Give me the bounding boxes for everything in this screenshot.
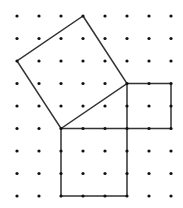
- grid-dot: [37, 37, 40, 40]
- grid-dot: [81, 194, 84, 197]
- grid-dot: [103, 104, 106, 107]
- grid-dot: [15, 194, 18, 197]
- grid-dot: [169, 172, 172, 175]
- grid-dot: [15, 37, 18, 40]
- grid-dot: [169, 14, 172, 17]
- grid-dot: [59, 104, 62, 107]
- grid-dot: [37, 104, 40, 107]
- grid-dot: [37, 127, 40, 130]
- grid-dot: [147, 14, 150, 17]
- grid-dot: [125, 37, 128, 40]
- large-square: [61, 129, 127, 197]
- tilted-square: [17, 16, 127, 129]
- dot-grid-diagram: [0, 0, 183, 208]
- grid-dot: [15, 59, 18, 62]
- grid-dot: [125, 14, 128, 17]
- grid-dot: [37, 82, 40, 85]
- grid-dot: [103, 14, 106, 17]
- grid-dot: [103, 172, 106, 175]
- grid-dot: [125, 104, 128, 107]
- grid-dot: [103, 127, 106, 130]
- grid-dot: [37, 14, 40, 17]
- grid-dot: [103, 59, 106, 62]
- grid-dot: [125, 149, 128, 152]
- grid-dot: [37, 149, 40, 152]
- grid-dot: [37, 194, 40, 197]
- grid-dot: [169, 194, 172, 197]
- grid-dot: [103, 194, 106, 197]
- grid-dot: [147, 149, 150, 152]
- grid-dot: [147, 104, 150, 107]
- grid-dot: [147, 127, 150, 130]
- grid-dot: [15, 127, 18, 130]
- grid-dot: [169, 82, 172, 85]
- diagram-svg: [0, 0, 183, 208]
- grid-dot: [169, 37, 172, 40]
- grid-dot: [169, 149, 172, 152]
- grid-dot: [59, 194, 62, 197]
- grid-dot: [59, 127, 62, 130]
- grid-dot: [81, 127, 84, 130]
- grid-dot: [59, 37, 62, 40]
- grid-dot: [125, 59, 128, 62]
- grid-dot: [147, 82, 150, 85]
- grid-dot: [15, 172, 18, 175]
- grid-dot: [15, 82, 18, 85]
- grid-dot: [59, 149, 62, 152]
- grid-dot: [103, 82, 106, 85]
- grid-dot: [15, 149, 18, 152]
- grid-dot: [169, 127, 172, 130]
- grid-dot: [147, 172, 150, 175]
- grid-dot: [15, 104, 18, 107]
- grid-dot: [81, 104, 84, 107]
- grid-dot: [125, 82, 128, 85]
- grid-dot: [147, 59, 150, 62]
- grid-dot: [37, 59, 40, 62]
- grid-dot: [103, 37, 106, 40]
- grid-dot: [37, 172, 40, 175]
- grid-dot: [147, 194, 150, 197]
- grid-dot: [81, 59, 84, 62]
- grid-dot: [15, 14, 18, 17]
- grid-dot: [103, 149, 106, 152]
- grid-dot: [81, 149, 84, 152]
- grid-dot: [81, 82, 84, 85]
- grid-dot: [169, 104, 172, 107]
- grid-dot: [81, 14, 84, 17]
- grid-dot: [59, 59, 62, 62]
- grid-dot: [59, 14, 62, 17]
- grid-dot: [59, 172, 62, 175]
- grid-dot: [81, 37, 84, 40]
- grid-dot: [59, 82, 62, 85]
- grid-dot: [147, 37, 150, 40]
- grid-dot: [81, 172, 84, 175]
- grid-dot: [125, 127, 128, 130]
- grid-dot: [169, 59, 172, 62]
- grid-dot: [125, 172, 128, 175]
- grid-dot: [125, 194, 128, 197]
